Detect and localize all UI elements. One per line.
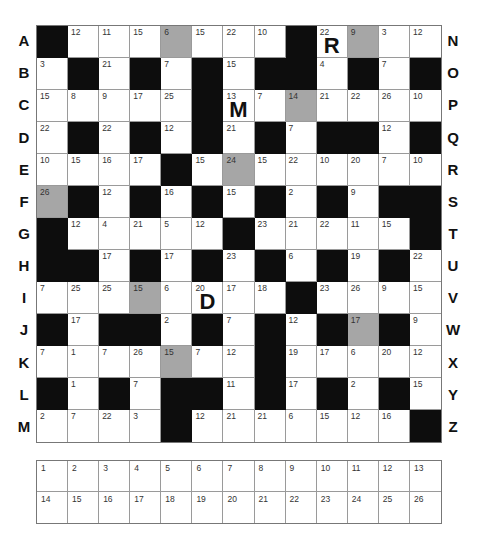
grid-cell[interactable]: 10 (410, 90, 441, 122)
grid-cell[interactable]: 10 (255, 26, 286, 58)
key-cell[interactable]: 16 (99, 492, 130, 523)
grid-cell[interactable]: 26 (379, 90, 410, 122)
grid-cell[interactable]: 18 (255, 282, 286, 314)
grid-cell[interactable]: 22 (99, 122, 130, 154)
grid-cell[interactable]: 21 (286, 218, 317, 250)
shaded-cell[interactable]: 6 (161, 26, 192, 58)
grid-cell[interactable]: 12 (68, 26, 99, 58)
key-cell[interactable]: 11 (348, 461, 379, 492)
grid-cell[interactable]: 25 (161, 90, 192, 122)
grid-cell[interactable]: 21 (255, 410, 286, 442)
grid-cell[interactable]: 12 (161, 122, 192, 154)
grid-cell[interactable]: 5 (161, 218, 192, 250)
grid-cell[interactable]: 25 (99, 282, 130, 314)
grid-cell[interactable]: 17 (161, 250, 192, 282)
key-cell[interactable]: 5 (161, 461, 192, 492)
grid-cell[interactable]: 17 (317, 346, 348, 378)
grid-cell[interactable]: 15 (223, 58, 254, 90)
key-cell[interactable]: 17 (130, 492, 161, 523)
grid-cell[interactable]: 3 (37, 58, 68, 90)
grid-cell[interactable]: 17 (223, 282, 254, 314)
grid-cell[interactable]: 22 (410, 250, 441, 282)
key-cell[interactable]: 21 (255, 492, 286, 523)
grid-cell[interactable]: 15 (255, 154, 286, 186)
key-cell[interactable]: 1 (37, 461, 68, 492)
shaded-cell[interactable]: 24 (223, 154, 254, 186)
grid-cell[interactable]: 6 (161, 282, 192, 314)
grid-cell[interactable]: 11 (99, 26, 130, 58)
grid-cell[interactable]: 15 (379, 218, 410, 250)
grid-cell[interactable]: 17 (68, 314, 99, 346)
grid-cell[interactable]: 9 (379, 282, 410, 314)
shaded-cell[interactable]: 15 (130, 282, 161, 314)
key-cell[interactable]: 20 (223, 492, 254, 523)
grid-cell[interactable]: 7 (37, 282, 68, 314)
key-cell[interactable]: 26 (410, 492, 441, 523)
grid-cell[interactable]: 15 (192, 154, 223, 186)
grid-cell[interactable]: 7 (223, 314, 254, 346)
grid-cell[interactable]: 22 (286, 154, 317, 186)
grid-cell[interactable]: 12 (379, 122, 410, 154)
grid-cell[interactable]: 21 (99, 58, 130, 90)
grid-cell[interactable]: 22 (37, 122, 68, 154)
grid-cell[interactable]: 12 (192, 410, 223, 442)
grid-cell[interactable]: 20D (192, 282, 223, 314)
grid-cell[interactable]: 7 (286, 122, 317, 154)
key-cell[interactable]: 23 (317, 492, 348, 523)
grid-cell[interactable]: 9 (348, 186, 379, 218)
grid-cell[interactable]: 12 (348, 410, 379, 442)
key-cell[interactable]: 22 (286, 492, 317, 523)
shaded-cell[interactable]: 14 (286, 90, 317, 122)
key-cell[interactable]: 15 (68, 492, 99, 523)
grid-cell[interactable]: 16 (379, 410, 410, 442)
key-cell[interactable]: 2 (68, 461, 99, 492)
grid-cell[interactable]: 7 (161, 58, 192, 90)
grid-cell[interactable]: 2 (161, 314, 192, 346)
grid-cell[interactable]: 6 (348, 346, 379, 378)
grid-cell[interactable]: 12 (410, 26, 441, 58)
grid-cell[interactable]: 2 (37, 410, 68, 442)
key-cell[interactable]: 9 (286, 461, 317, 492)
key-cell[interactable]: 8 (255, 461, 286, 492)
grid-cell[interactable]: 16 (161, 186, 192, 218)
grid-cell[interactable]: 3 (379, 26, 410, 58)
grid-cell[interactable]: 7 (68, 410, 99, 442)
grid-cell[interactable]: 22 (223, 26, 254, 58)
grid-cell[interactable]: 12 (410, 346, 441, 378)
key-cell[interactable]: 7 (223, 461, 254, 492)
grid-cell[interactable]: 17 (99, 250, 130, 282)
grid-cell[interactable]: 17 (286, 378, 317, 410)
grid-cell[interactable]: 15 (192, 26, 223, 58)
grid-cell[interactable]: 12 (223, 346, 254, 378)
grid-cell[interactable]: 2 (348, 378, 379, 410)
grid-cell[interactable]: 22 (348, 90, 379, 122)
grid-cell[interactable]: 7 (255, 90, 286, 122)
grid-cell[interactable]: 21 (130, 218, 161, 250)
shaded-cell[interactable]: 9 (348, 26, 379, 58)
grid-cell[interactable]: 21 (223, 410, 254, 442)
grid-cell[interactable]: 10 (317, 154, 348, 186)
grid-cell[interactable]: 23 (317, 282, 348, 314)
shaded-cell[interactable]: 15 (161, 346, 192, 378)
key-cell[interactable]: 10 (317, 461, 348, 492)
grid-cell[interactable]: 23 (255, 218, 286, 250)
grid-cell[interactable]: 7 (379, 58, 410, 90)
grid-cell[interactable]: 20 (348, 154, 379, 186)
grid-cell[interactable]: 10 (37, 154, 68, 186)
grid-cell[interactable]: 15 (317, 410, 348, 442)
grid-cell[interactable]: 21 (223, 122, 254, 154)
grid-cell[interactable]: 6 (286, 410, 317, 442)
grid-cell[interactable]: 19 (348, 250, 379, 282)
key-cell[interactable]: 4 (130, 461, 161, 492)
grid-cell[interactable]: 15 (410, 282, 441, 314)
grid-cell[interactable]: 7 (37, 346, 68, 378)
grid-cell[interactable]: 15 (130, 26, 161, 58)
grid-cell[interactable]: 13M (223, 90, 254, 122)
key-cell[interactable]: 18 (161, 492, 192, 523)
key-cell[interactable]: 6 (192, 461, 223, 492)
grid-cell[interactable]: 7 (99, 346, 130, 378)
grid-cell[interactable]: 3 (130, 410, 161, 442)
shaded-cell[interactable]: 26 (37, 186, 68, 218)
key-cell[interactable]: 24 (348, 492, 379, 523)
key-cell[interactable]: 19 (192, 492, 223, 523)
